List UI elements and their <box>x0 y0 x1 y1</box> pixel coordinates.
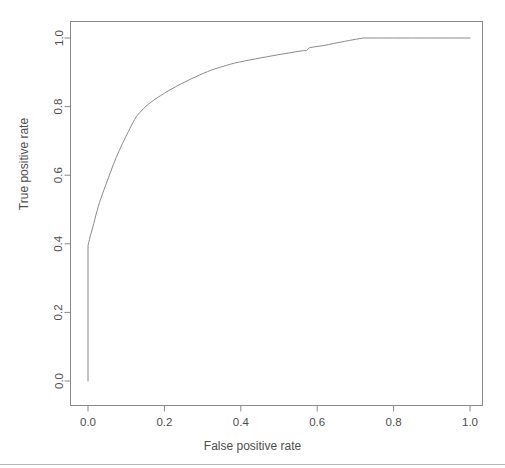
x-axis-ticks: 0.00.20.40.60.81.0 <box>80 406 478 428</box>
x-axis-title: False positive rate <box>0 439 505 453</box>
y-tick-label: 1.0 <box>53 30 65 46</box>
y-tick-label: 0.6 <box>53 167 65 183</box>
plot-frame <box>71 22 483 406</box>
x-tick-label: 0.0 <box>80 416 96 428</box>
x-tick-label: 0.8 <box>386 416 402 428</box>
roc-plot-area: 0.00.20.40.60.81.0 0.00.20.40.60.81.0 <box>0 0 505 468</box>
y-tick-label: 0.0 <box>53 373 65 389</box>
y-tick-label: 0.8 <box>53 99 65 115</box>
x-tick-label: 0.4 <box>233 416 250 428</box>
roc-chart-figure: 0.00.20.40.60.81.0 0.00.20.40.60.81.0 Fa… <box>0 0 505 468</box>
x-tick-label: 0.2 <box>156 416 172 428</box>
x-tick-label: 0.6 <box>309 416 325 428</box>
y-tick-label: 0.2 <box>53 304 65 320</box>
x-tick-label: 1.0 <box>462 416 478 428</box>
y-tick-label: 0.4 <box>53 235 65 252</box>
bottom-divider <box>0 464 505 465</box>
y-axis-title: True positive rate <box>17 94 31 234</box>
y-axis-ticks: 0.00.20.40.60.81.0 <box>53 30 71 389</box>
